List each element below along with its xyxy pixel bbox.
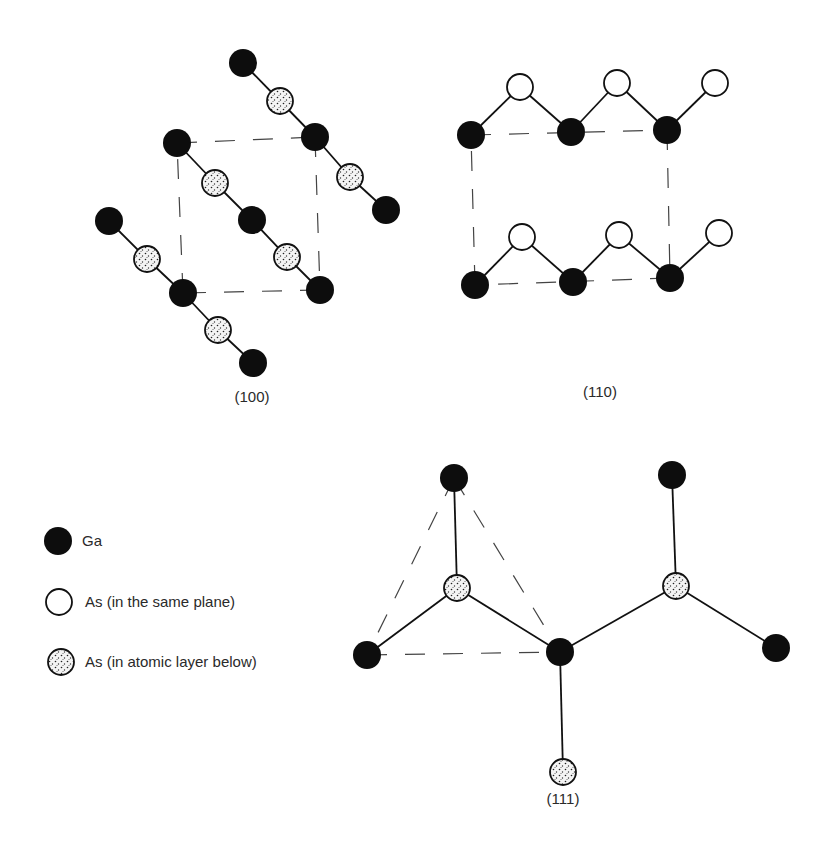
ga-atom-icon <box>301 123 329 151</box>
legend-label-as-layer-below: As (in atomic layer below) <box>85 653 257 670</box>
bond-line <box>457 588 560 652</box>
legend-label-as-same-plane: As (in the same plane) <box>85 593 235 610</box>
ga-atom-icon <box>229 49 257 77</box>
unit-cell-dashed-line <box>471 135 475 285</box>
ga-atom-icon <box>461 271 489 299</box>
ga-atom-icon <box>557 118 585 146</box>
as-below-atom-icon <box>202 170 228 196</box>
legend-label-ga: Ga <box>82 532 102 549</box>
panel-111-surface <box>353 461 790 785</box>
bond-line <box>560 652 563 772</box>
bond-line <box>560 586 676 652</box>
as-same-plane-atom-icon <box>706 220 732 246</box>
ga-atom-icon <box>559 268 587 296</box>
bond-line <box>672 475 676 586</box>
as-below-atom-icon <box>550 759 576 785</box>
ga-atom-icon <box>546 638 574 666</box>
panel-100-surface <box>95 49 400 377</box>
as-below-atom-icon <box>48 649 74 675</box>
unit-cell-dashed-line <box>315 137 320 290</box>
unit-cell-dashed-line <box>367 652 560 655</box>
bond-line <box>676 586 776 648</box>
ga-atom-icon <box>169 279 197 307</box>
gaas-surface-diagram <box>0 0 834 852</box>
as-below-atom-icon <box>274 244 300 270</box>
ga-atom-icon <box>658 461 686 489</box>
as-below-atom-icon <box>444 575 470 601</box>
ga-atom-icon <box>239 349 267 377</box>
as-same-plane-atom-icon <box>606 222 632 248</box>
as-below-atom-icon <box>205 317 231 343</box>
as-below-atom-icon <box>134 246 160 272</box>
ga-atom-icon <box>353 641 381 669</box>
ga-atom-icon <box>656 264 684 292</box>
as-same-plane-atom-icon <box>702 70 728 96</box>
bond-line <box>454 478 457 588</box>
ga-atom-icon <box>372 196 400 224</box>
unit-cell-dashed-line <box>177 143 183 293</box>
unit-cell-dashed-line <box>454 478 560 652</box>
as-same-plane-atom-icon <box>604 70 630 96</box>
unit-cell-dashed-line <box>667 130 670 278</box>
unit-cell-dashed-line <box>367 478 454 655</box>
ga-atom-icon <box>306 276 334 304</box>
ga-atom-icon <box>653 116 681 144</box>
unit-cell-dashed-line <box>183 290 320 293</box>
ga-atom-icon <box>238 206 266 234</box>
as-same-plane-atom-icon <box>46 589 72 615</box>
unit-cell-dashed-line <box>177 137 315 143</box>
as-below-atom-icon <box>663 573 689 599</box>
as-below-atom-icon <box>337 164 363 190</box>
ga-atom-icon <box>762 634 790 662</box>
as-same-plane-atom-icon <box>507 74 533 100</box>
ga-atom-icon <box>457 121 485 149</box>
ga-atom-icon <box>163 129 191 157</box>
bond-line <box>367 588 457 655</box>
ga-atom-icon <box>440 464 468 492</box>
legend-icons <box>44 527 74 675</box>
caption-110: (110) <box>583 383 617 400</box>
ga-atom-icon <box>95 207 123 235</box>
as-same-plane-atom-icon <box>509 224 535 250</box>
caption-100: (100) <box>234 388 269 405</box>
ga-atom-icon <box>44 527 72 555</box>
caption-111: (111) <box>547 790 580 807</box>
panel-110-surface <box>457 70 732 299</box>
as-below-atom-icon <box>267 88 293 114</box>
